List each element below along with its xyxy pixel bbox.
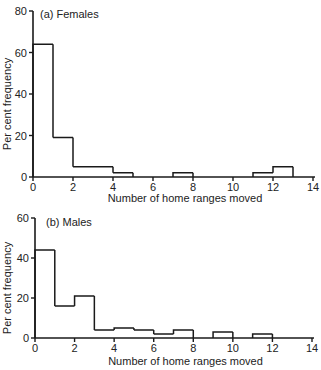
histogram-bars bbox=[35, 250, 272, 338]
panel-title: (a) Females bbox=[40, 8, 99, 20]
x-axis-title: Number of home ranges moved bbox=[108, 355, 263, 367]
x-tick-label: 14 bbox=[306, 342, 318, 354]
x-tick-label: 4 bbox=[111, 342, 117, 354]
x-axis-title: Number of home ranges moved bbox=[108, 192, 263, 204]
y-tick-label: 60 bbox=[15, 47, 27, 59]
x-tick-label: 2 bbox=[72, 342, 78, 354]
y-tick-label: 0 bbox=[23, 332, 29, 344]
y-axis-title: Per cent frequency bbox=[1, 57, 13, 150]
x-tick-label: 12 bbox=[267, 181, 279, 193]
y-tick-label: 80 bbox=[15, 5, 27, 17]
panel-title: (b) Males bbox=[46, 216, 92, 228]
males-histogram-panel: 020406002468101214(b) MalesNumber of hom… bbox=[1, 212, 318, 367]
y-tick-label: 20 bbox=[15, 130, 27, 142]
y-tick-label: 20 bbox=[17, 292, 29, 304]
x-tick-label: 0 bbox=[30, 181, 36, 193]
x-tick-label: 6 bbox=[151, 342, 157, 354]
females-histogram-panel: 02040608002468101214(a) FemalesNumber of… bbox=[1, 5, 319, 204]
y-tick-label: 0 bbox=[21, 171, 27, 183]
x-tick-label: 8 bbox=[190, 342, 196, 354]
y-tick-label: 40 bbox=[17, 252, 29, 264]
x-tick-label: 0 bbox=[32, 342, 38, 354]
y-tick-label: 60 bbox=[17, 212, 29, 224]
x-tick-label: 14 bbox=[307, 181, 319, 193]
histogram-bars bbox=[33, 44, 293, 177]
x-tick-label: 2 bbox=[70, 181, 76, 193]
x-tick-label: 12 bbox=[266, 342, 278, 354]
y-axis-title: Per cent frequency bbox=[1, 241, 13, 334]
histogram-figure: 02040608002468101214(a) FemalesNumber of… bbox=[0, 0, 321, 370]
x-tick-label: 10 bbox=[227, 342, 239, 354]
y-tick-label: 40 bbox=[15, 88, 27, 100]
